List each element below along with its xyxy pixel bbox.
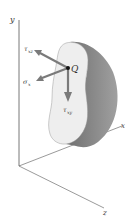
- point-q-dot: [66, 66, 70, 70]
- z-axis-label: z: [102, 209, 107, 217]
- svg-text:xz: xz: [28, 49, 34, 54]
- svg-text:x: x: [28, 82, 31, 87]
- tau-xz-label: τ xz: [24, 45, 34, 54]
- x-axis-label: x: [121, 122, 125, 130]
- svg-text:xy: xy: [67, 110, 73, 115]
- y-axis-label: y: [9, 15, 15, 24]
- sigma-x-label: σ x: [23, 78, 31, 87]
- z-axis: [19, 166, 104, 208]
- stress-diagram: y x z Q τ xz σ x τ xy: [0, 0, 129, 222]
- point-q-label: Q: [71, 64, 79, 74]
